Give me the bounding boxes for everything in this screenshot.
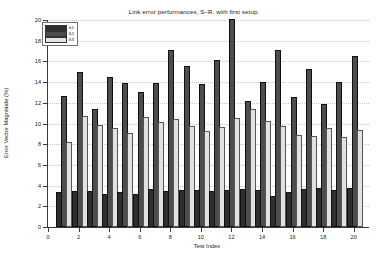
bar-group xyxy=(286,20,300,227)
x-axis-tick xyxy=(170,227,171,232)
y-axis-tick xyxy=(43,103,48,104)
bar-group xyxy=(194,20,208,227)
x-axis-tick-label: 12 xyxy=(228,234,234,240)
bar-group xyxy=(102,20,116,227)
bar-group xyxy=(72,20,86,227)
y-axis-tick xyxy=(43,20,48,21)
x-axis-tick xyxy=(231,227,232,232)
x-axis-tick-label: 18 xyxy=(320,234,326,240)
x-axis-tick xyxy=(79,227,80,232)
y-axis-tick xyxy=(43,186,48,187)
bar-group xyxy=(270,20,284,227)
bar-group xyxy=(209,20,223,227)
bar-group xyxy=(163,20,177,227)
y-axis-tick xyxy=(43,82,48,83)
legend-label-s3: S3 xyxy=(69,38,74,42)
y-axis-tick-label: 12 xyxy=(35,100,41,106)
x-axis-tick xyxy=(293,227,294,232)
y-axis-tick-label: 4 xyxy=(38,183,41,189)
x-axis-tick xyxy=(109,227,110,232)
y-axis-tick-label: 16 xyxy=(35,58,41,64)
x-axis-tick xyxy=(48,227,49,232)
x-axis-tick-label: 8 xyxy=(169,234,172,240)
y-axis-tick-label: 6 xyxy=(38,162,41,168)
legend-item-s3: S3 xyxy=(45,37,76,43)
x-axis-tick xyxy=(354,227,355,232)
bar-group xyxy=(301,20,315,227)
y-axis-tick xyxy=(43,165,48,166)
bar-group xyxy=(148,20,162,227)
legend-label-s2: S2 xyxy=(69,32,74,36)
bar-group xyxy=(347,20,361,227)
x-axis-tick-label: 2 xyxy=(77,234,80,240)
x-axis-tick xyxy=(323,227,324,232)
x-axis-tick xyxy=(262,227,263,232)
y-axis-tick xyxy=(43,206,48,207)
bar-group xyxy=(224,20,238,227)
y-axis-tick xyxy=(43,124,48,125)
y-axis-tick-label: 20 xyxy=(35,17,41,23)
x-axis-tick-label: 20 xyxy=(351,234,357,240)
x-axis-tick-label: 14 xyxy=(259,234,265,240)
x-axis-tick xyxy=(140,227,141,232)
legend-label-s1: S1 xyxy=(69,26,74,30)
y-axis-tick-label: 2 xyxy=(38,203,41,209)
bar-group xyxy=(316,20,330,227)
x-axis-tick xyxy=(201,227,202,232)
plot-area: 0246810121416182002468101214161820 xyxy=(47,20,369,228)
chart-legend: S1 S2 S3 xyxy=(42,22,78,46)
bar-group xyxy=(179,20,193,227)
y-axis-tick-label: 10 xyxy=(35,121,41,127)
x-axis-tick-label: 10 xyxy=(198,234,204,240)
bar-s3 xyxy=(357,130,363,227)
bar-group xyxy=(117,20,131,227)
y-axis-tick xyxy=(43,61,48,62)
bar-group xyxy=(133,20,147,227)
y-axis-label: Error Vector Magnitude (%) xyxy=(3,88,9,158)
y-axis-tick-label: 8 xyxy=(38,141,41,147)
x-axis-label: Test Index xyxy=(194,243,220,249)
y-axis-tick-label: 14 xyxy=(35,79,41,85)
y-axis-tick-label: 0 xyxy=(38,224,41,230)
bar-group xyxy=(331,20,345,227)
y-axis-tick-label: 18 xyxy=(35,38,41,44)
x-axis-tick-label: 0 xyxy=(46,234,49,240)
y-axis-tick xyxy=(43,144,48,145)
bar-group xyxy=(87,20,101,227)
bar-group xyxy=(255,20,269,227)
bar-group xyxy=(240,20,254,227)
x-axis-tick-label: 4 xyxy=(108,234,111,240)
chart-figure: Link error performances, S–R, with first… xyxy=(0,0,388,262)
bar-group xyxy=(56,20,70,227)
x-axis-tick-label: 6 xyxy=(138,234,141,240)
chart-title: Link error performances, S–R, with first… xyxy=(0,8,388,15)
legend-swatch-s3 xyxy=(45,37,67,43)
bars-layer xyxy=(48,20,369,227)
x-axis-tick-label: 16 xyxy=(289,234,295,240)
